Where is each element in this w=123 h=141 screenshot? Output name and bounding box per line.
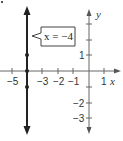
x-axis — [0, 68, 121, 74]
x-tick-label-m2: −2 — [53, 76, 65, 87]
coordinate-plane: −5 −3 −2 −1 1 x 1 −2 −3 y x = −4 — [0, 0, 123, 141]
x-axis-label: x — [109, 75, 115, 87]
y-tick-label-m3: −3 — [73, 113, 85, 124]
line-down-arrow-icon — [24, 126, 31, 135]
point-m4-0 — [25, 69, 29, 73]
y-tick-label-1: 1 — [79, 50, 85, 61]
point-m4-m1 — [25, 85, 29, 89]
equation-callout: x = −4 — [32, 27, 75, 46]
corner-mark — [1, 1, 3, 3]
x-tick-label-m3: −3 — [37, 76, 49, 87]
y-axis-down-arrow-icon — [87, 127, 92, 134]
x-tick-label-m5: −5 — [7, 76, 19, 87]
callout-label: x = −4 — [44, 30, 73, 42]
y-axis-label: y — [95, 8, 101, 20]
y-tick-label-m2: −2 — [73, 98, 85, 109]
x-tick-label-1: 1 — [101, 76, 107, 87]
x-tick-label-m1: −1 — [68, 76, 80, 87]
x-axis-arrow-icon — [114, 69, 121, 74]
line-up-arrow-icon — [24, 6, 31, 15]
point-m4-1 — [25, 53, 29, 57]
y-axis-up-arrow-icon — [87, 9, 92, 16]
